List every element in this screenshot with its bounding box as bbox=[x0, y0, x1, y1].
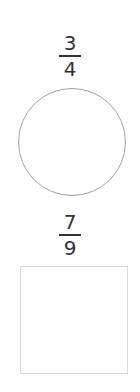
numerator: 3 bbox=[0, 33, 140, 53]
denominator: 4 bbox=[0, 59, 140, 79]
circle-shape[interactable] bbox=[18, 88, 126, 196]
fraction-7-9: 7 9 bbox=[0, 212, 140, 258]
denominator: 9 bbox=[0, 238, 140, 258]
numerator: 7 bbox=[0, 212, 140, 232]
fraction-3-4: 3 4 bbox=[0, 33, 140, 79]
square-shape[interactable] bbox=[20, 266, 128, 374]
